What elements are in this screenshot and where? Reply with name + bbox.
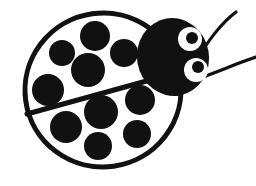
ladybug-illustration (0, 0, 256, 186)
upper-wing-spot-1 (80, 21, 110, 51)
lower-wing-spot-2 (125, 85, 155, 115)
lower-wing-spot-4 (123, 120, 151, 148)
upper-wing-spot-2 (49, 40, 75, 66)
lower-eye-pupil (192, 61, 204, 73)
upper-eye-pupil (186, 32, 198, 44)
image-canvas: Black and white ladybug clipart with ten… (0, 0, 256, 186)
upper-wing-spot-4 (71, 53, 105, 87)
lower-wing-spot-3 (50, 111, 82, 143)
upper-wing-spot-3 (110, 39, 138, 67)
upper-wing-spot-5 (32, 74, 64, 106)
lower-wing-spot-5 (84, 132, 112, 160)
lower-wing-spot-1 (84, 95, 118, 129)
